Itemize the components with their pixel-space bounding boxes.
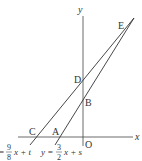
equation-line-cd: = 9 8 x + t xyxy=(0,143,32,161)
svg-text:=: = xyxy=(0,147,4,157)
svg-text:8: 8 xyxy=(7,153,11,161)
origin-label: O xyxy=(85,139,92,150)
point-c-label: C xyxy=(29,126,36,137)
point-e-label: E xyxy=(118,20,124,31)
point-b-label: B xyxy=(85,97,92,108)
svg-text:y =: y = xyxy=(40,147,53,157)
svg-text:x + s: x + s xyxy=(63,147,83,157)
x-axis-label: x xyxy=(134,131,140,142)
svg-text:x + t: x + t xyxy=(13,147,32,157)
svg-text:2: 2 xyxy=(57,153,61,161)
point-d-label: D xyxy=(74,74,81,85)
coordinate-diagram: y x O E D B C A = 9 8 x + t y = 3 2 x + … xyxy=(0,0,142,161)
equation-line-ab: y = 3 2 x + s xyxy=(40,143,83,161)
svg-text:9: 9 xyxy=(7,143,11,152)
point-a-label: A xyxy=(52,126,60,137)
y-axis-label: y xyxy=(77,4,83,15)
svg-text:3: 3 xyxy=(57,143,61,152)
line-cd xyxy=(30,18,134,145)
line-ab xyxy=(55,18,134,145)
